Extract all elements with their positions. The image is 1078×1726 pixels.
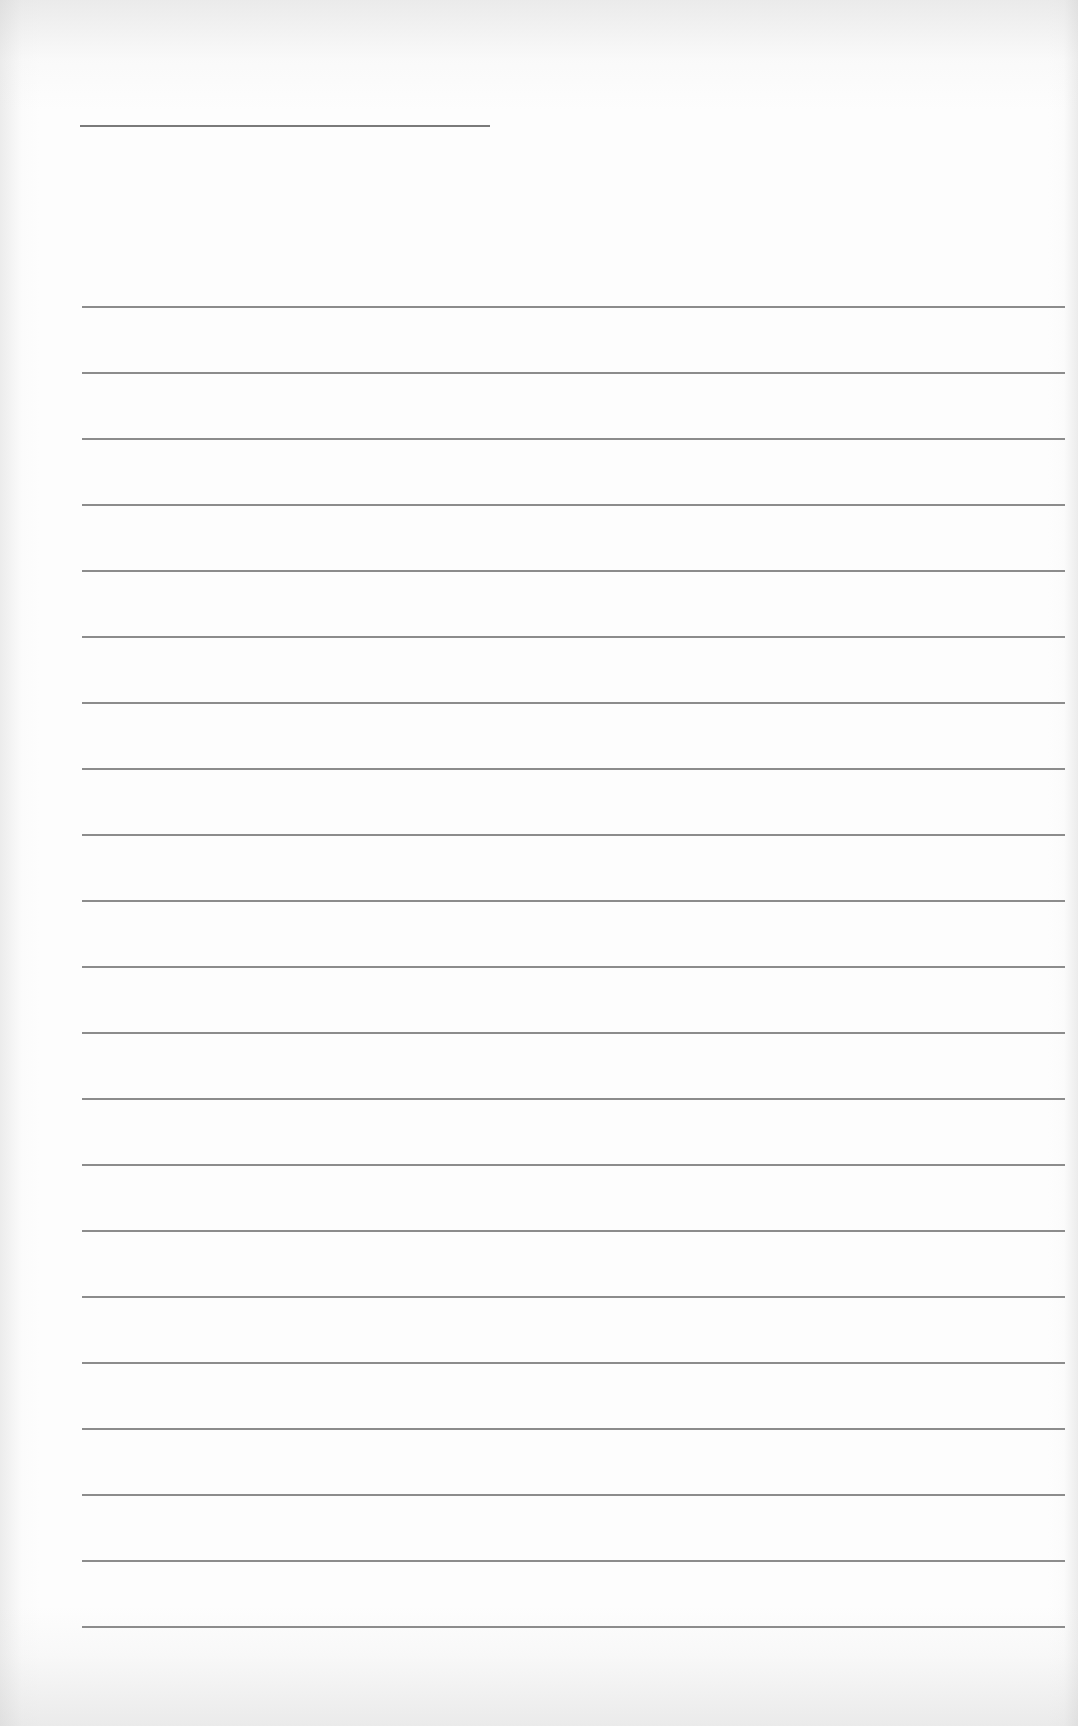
ruled-line <box>82 504 1065 506</box>
ruled-line <box>82 702 1065 704</box>
ruled-line <box>82 636 1065 638</box>
ruled-line <box>82 438 1065 440</box>
ruled-line <box>82 372 1065 374</box>
ruled-line <box>82 1362 1065 1364</box>
lined-paper-page <box>0 0 1078 1726</box>
ruled-line <box>82 1230 1065 1232</box>
ruled-line <box>82 306 1065 308</box>
ruled-line <box>82 570 1065 572</box>
ruled-line <box>82 1098 1065 1100</box>
ruled-line <box>82 1494 1065 1496</box>
ruled-line <box>82 1032 1065 1034</box>
ruled-line <box>82 1296 1065 1298</box>
ruled-line <box>82 1560 1065 1562</box>
ruled-line <box>82 768 1065 770</box>
ruled-line <box>82 834 1065 836</box>
ruled-line <box>82 1428 1065 1430</box>
ruled-line <box>82 1164 1065 1166</box>
ruled-line <box>82 1626 1065 1628</box>
ruled-line <box>82 966 1065 968</box>
title-line <box>80 125 490 127</box>
ruled-line <box>82 900 1065 902</box>
